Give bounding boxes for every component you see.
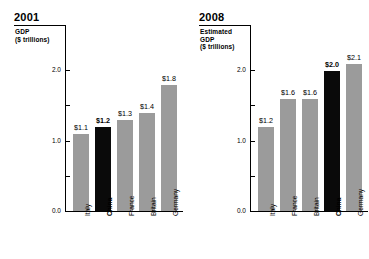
y-tick-label-0: 0.0 xyxy=(224,207,246,214)
chart-panel-2001: 2001 GDP ($ trillions) 2.0 1.0 0.0 $1.1 xyxy=(0,0,184,259)
gdp-comparison-figure: 2001 GDP ($ trillions) 2.0 1.0 0.0 $1.1 xyxy=(0,0,369,259)
bar-value-italy: $1.2 xyxy=(250,117,282,125)
bar-value-britain: $1.4 xyxy=(131,103,163,111)
y-tick-1 xyxy=(251,141,255,142)
bar-italy xyxy=(258,127,274,211)
cat-label-italy: Italy xyxy=(269,204,276,216)
x-axis-line xyxy=(65,211,183,212)
bar-china xyxy=(324,71,340,211)
cat-label-germany: Germany xyxy=(357,189,364,216)
panel-title-2008: 2008 xyxy=(199,11,224,23)
cat-label-china: China xyxy=(106,198,113,216)
cat-label-italy: Italy xyxy=(84,204,91,216)
cat-label-germany: Germany xyxy=(172,189,179,216)
x-axis-line xyxy=(250,211,368,212)
bar-britain xyxy=(302,99,318,211)
y-tick-0p5 xyxy=(251,176,255,177)
cat-label-france: France xyxy=(128,195,135,216)
y-tick-1 xyxy=(66,141,70,142)
bar-value-china: $1.2 xyxy=(87,117,119,125)
title-rule xyxy=(199,25,251,26)
bar-value-britain: $1.6 xyxy=(294,89,326,97)
chart-panel-2008: 2008 Estimated GDP ($ trillions) 2.0 1.0… xyxy=(185,0,369,259)
bar-value-france: $1.3 xyxy=(109,110,141,118)
y-tick-1p5 xyxy=(66,105,70,106)
y-tick-label-2: 2.0 xyxy=(224,66,246,73)
cat-label-britain: Britain xyxy=(313,197,320,216)
y-tick-label-1: 1.0 xyxy=(224,137,246,144)
y-tick-1p5 xyxy=(251,105,255,106)
y-tick-2 xyxy=(66,70,70,71)
title-rule xyxy=(14,25,66,26)
y-axis-line xyxy=(65,26,66,212)
cat-label-france: France xyxy=(291,195,298,216)
y-tick-label-0: 0.0 xyxy=(39,207,61,214)
panel-title-2001: 2001 xyxy=(14,11,39,23)
bar-value-china: $2.0 xyxy=(316,61,348,69)
y-tick-label-2: 2.0 xyxy=(39,66,61,73)
axis-caption-2008: Estimated GDP ($ trillions) xyxy=(200,28,235,51)
bar-italy xyxy=(73,134,89,211)
bar-value-germany: $1.8 xyxy=(153,75,185,83)
cat-label-china: China xyxy=(335,198,342,216)
bar-value-italy: $1.1 xyxy=(65,124,97,132)
y-tick-0p5 xyxy=(66,176,70,177)
y-tick-label-1: 1.0 xyxy=(39,137,61,144)
bar-value-germany: $2.1 xyxy=(338,54,369,62)
y-tick-2 xyxy=(251,70,255,71)
cat-label-britain: Britain xyxy=(150,197,157,216)
axis-caption-2001: GDP ($ trillions) xyxy=(15,28,50,43)
